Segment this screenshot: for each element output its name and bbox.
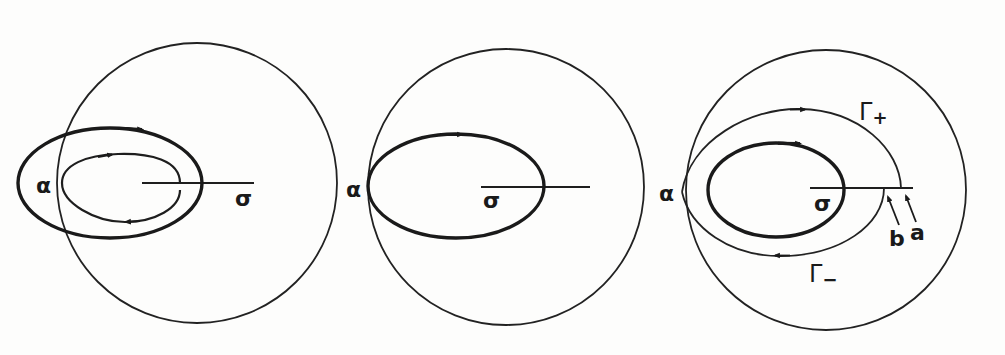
contour-gamma-minus [682,188,884,256]
panel-2 [368,49,644,325]
inner-closed-contour [708,143,844,237]
label-a: a [910,222,925,244]
panel-1 [18,43,337,323]
pointer-arrow-b-icon [888,197,899,225]
label-gamma-minus: Γ− [809,262,837,289]
figure-drawing [0,0,1005,355]
arrow-icon [126,129,142,130]
label-alpha: α [36,175,51,197]
arrow-icon [126,221,140,222]
label-sigma: σ [814,193,831,215]
pointer-arrow-a-icon [906,196,916,222]
label-sigma: σ [483,190,500,212]
label-alpha: α [659,183,674,205]
label-b: b [889,228,905,250]
contour-figure: α σ α σ α σ Γ+ Γ− b a [0,0,1005,355]
label-sigma: σ [235,188,252,210]
inner-contour [62,154,180,222]
label-alpha: α [346,179,361,201]
label-gamma-plus: Γ+ [859,100,887,127]
